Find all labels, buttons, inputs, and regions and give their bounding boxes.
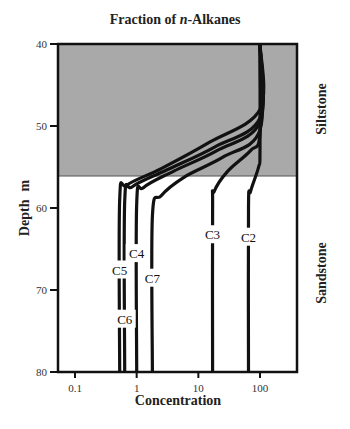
- y-tick-label: 60: [36, 202, 48, 214]
- zone-label-sandstone: Sandstone: [314, 223, 330, 323]
- y-tick-label: 50: [36, 120, 48, 132]
- x-axis-label: Concentration: [58, 393, 298, 409]
- curve-label-c2: C2: [241, 230, 256, 245]
- y-tick-label: 80: [36, 366, 48, 378]
- y-axis-label: Depthm: [17, 163, 33, 253]
- zone-sandstone: [58, 176, 297, 372]
- y-axis-ticks: 4050607080: [36, 38, 58, 378]
- curve-label-c3: C3: [205, 227, 220, 242]
- curve-label-c6: C6: [117, 312, 133, 327]
- curve-label-c7: C7: [145, 271, 161, 286]
- y-tick-label: 70: [36, 284, 48, 296]
- zone-label-siltstone: Siltstone: [314, 59, 330, 159]
- curve-label-c4: C4: [129, 246, 145, 261]
- chart-canvas: C2C3C4C5C6C7 0.1110100 4050607080: [0, 0, 350, 429]
- y-tick-label: 40: [36, 38, 48, 50]
- chart-title: Fraction of n-Alkanes: [0, 12, 350, 28]
- curve-label-c5: C5: [112, 263, 127, 278]
- x-axis-ticks: 0.1110100: [68, 372, 269, 394]
